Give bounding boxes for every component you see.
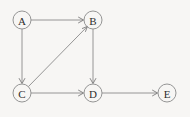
- node-d-label: D: [89, 88, 97, 100]
- node-c-label: C: [18, 88, 25, 100]
- node-b[interactable]: B: [84, 11, 102, 29]
- edge-d-to-e: [102, 90, 158, 96]
- node-e-label: E: [164, 88, 171, 100]
- node-a[interactable]: A: [13, 11, 31, 29]
- node-a-label: A: [18, 15, 26, 27]
- edge-a-to-c: [19, 29, 25, 84]
- graph-svg: A B C D E: [0, 0, 190, 117]
- node-c[interactable]: C: [13, 84, 31, 102]
- node-d[interactable]: D: [84, 84, 102, 102]
- edge-c-to-d: [31, 90, 84, 96]
- edge-a-to-b: [31, 17, 84, 23]
- edges-group: [19, 17, 158, 96]
- node-e[interactable]: E: [158, 84, 176, 102]
- edge-c-to-b-line: [28, 27, 86, 87]
- graph-diagram-canvas: A B C D E: [0, 0, 190, 117]
- edge-b-to-d: [90, 29, 96, 84]
- edge-c-to-b: [28, 26, 87, 86]
- node-b-label: B: [89, 15, 96, 27]
- nodes-group: A B C D E: [13, 11, 176, 102]
